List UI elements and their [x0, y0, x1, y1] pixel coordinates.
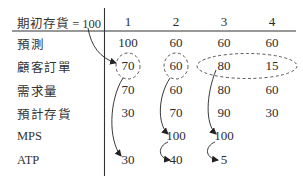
customer-orders-cell: 60: [170, 58, 183, 74]
row-label-projected-inventory: 預計存貨: [17, 104, 71, 123]
demand-cell: 60: [266, 82, 279, 98]
mps-atp-table-figure: 期初存貨 = 100 1 2 3 4 預測 100 60 60 60 顧客訂單 …: [0, 0, 303, 180]
demand-cell: 80: [218, 82, 231, 98]
circle-order-periods-3-4: [197, 54, 297, 79]
projected-inventory-cell: 70: [170, 105, 183, 121]
projected-inventory-cell: 90: [218, 105, 231, 121]
period-header-3: 3: [221, 14, 228, 30]
row-label-atp: ATP: [17, 153, 39, 168]
initial-inventory-label: 期初存貨 = 100: [17, 13, 101, 32]
projected-inventory-cell: 30: [266, 105, 279, 121]
arrow-initial-inventory-to-order-1: [88, 28, 116, 63]
mps-cell: 100: [166, 128, 186, 144]
period-header-2: 2: [173, 14, 180, 30]
period-header-1: 1: [125, 14, 132, 30]
demand-cell: 70: [122, 82, 135, 98]
arrow-orders-3-4-to-mps-3: [208, 70, 216, 134]
row-label-customer-orders: 顧客訂單: [17, 57, 71, 76]
arrow-mps-3-to-atp-3: [207, 142, 218, 160]
mps-cell: 100: [214, 128, 234, 144]
customer-orders-cell: 70: [122, 58, 135, 74]
row-label-mps: MPS: [17, 129, 42, 144]
projected-inventory-cell: 30: [122, 105, 135, 121]
forecast-cell: 100: [118, 35, 138, 51]
row-label-demand: 需求量: [17, 81, 58, 100]
forecast-cell: 60: [266, 35, 279, 51]
customer-orders-cell: 80: [218, 58, 231, 74]
forecast-cell: 60: [170, 35, 183, 51]
atp-cell: 40: [170, 152, 183, 168]
demand-cell: 60: [170, 82, 183, 98]
forecast-cell: 60: [218, 35, 231, 51]
atp-cell: 5: [221, 152, 228, 168]
row-label-forecast: 預測: [17, 34, 44, 53]
customer-orders-cell: 15: [266, 58, 279, 74]
period-header-4: 4: [269, 14, 276, 30]
atp-cell: 30: [122, 152, 135, 168]
